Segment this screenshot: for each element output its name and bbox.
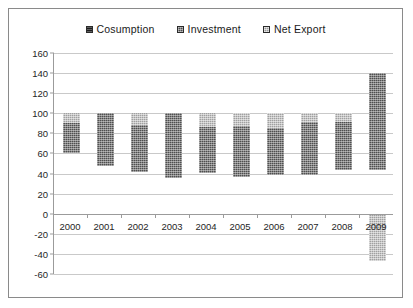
legend-item-label: Cosumption — [97, 23, 155, 35]
bar-segment-investment — [131, 125, 148, 171]
x-axis-tick — [257, 214, 258, 218]
square-dark-icon — [86, 26, 93, 33]
bar-segment-cosumption — [335, 170, 352, 214]
bar-segment-cosumption — [267, 175, 284, 214]
x-axis-label: 2008 — [331, 221, 352, 232]
bar-segment-net-export — [233, 113, 250, 126]
legend-item-cosumption[interactable]: Cosumption — [86, 23, 155, 35]
bar-group-2003[interactable] — [165, 53, 182, 274]
bar-group-2006[interactable] — [267, 53, 284, 274]
chart-legend: CosumptionInvestmentNet Export — [9, 23, 402, 35]
bar-group-2004[interactable] — [199, 53, 216, 274]
x-axis-label: 2000 — [59, 221, 80, 232]
bar-series-container — [54, 53, 393, 274]
y-axis-label: 60 — [14, 148, 48, 159]
legend-item-label: Investment — [188, 23, 241, 35]
y-axis-label: 20 — [14, 188, 48, 199]
x-axis-label: 2006 — [263, 221, 284, 232]
bar-segment-net-export — [301, 113, 318, 122]
bar-segment-investment — [301, 122, 318, 174]
bar-group-2002[interactable] — [131, 53, 148, 274]
x-axis-label: 2007 — [297, 221, 318, 232]
bar-segment-investment — [97, 113, 114, 165]
x-axis-label: 2001 — [93, 221, 114, 232]
bar-segment-cosumption — [97, 166, 114, 214]
gridline — [54, 274, 393, 275]
bar-segment-investment — [335, 122, 352, 169]
bar-group-2000[interactable] — [63, 53, 80, 274]
bar-group-2007[interactable] — [301, 53, 318, 274]
bar-group-2008[interactable] — [335, 53, 352, 274]
bar-segment-cosumption — [369, 170, 386, 214]
bar-segment-cosumption — [233, 177, 250, 214]
y-axis-label: 160 — [14, 48, 48, 59]
bar-segment-investment — [233, 126, 250, 176]
bar-segment-investment — [369, 73, 386, 169]
x-axis-label: 2004 — [195, 221, 216, 232]
y-axis-label: 100 — [14, 108, 48, 119]
x-axis-tick — [189, 214, 190, 218]
bar-segment-investment — [165, 113, 182, 177]
x-axis-tick — [121, 214, 122, 218]
plot-area: 160140120100806040200-20-40-60 — [53, 53, 393, 274]
x-axis-label: 2003 — [161, 221, 182, 232]
x-axis-tick — [223, 214, 224, 218]
x-axis — [53, 214, 393, 215]
x-axis-label: 2005 — [229, 221, 250, 232]
y-axis-label: 80 — [14, 128, 48, 139]
bar-group-2005[interactable] — [233, 53, 250, 274]
bar-group-2009[interactable] — [369, 53, 386, 274]
bar-group-2001[interactable] — [97, 53, 114, 274]
bar-segment-cosumption — [301, 175, 318, 214]
x-axis-tick — [155, 214, 156, 218]
y-axis-label: -20 — [14, 228, 48, 239]
x-axis-label: 2009 — [365, 221, 386, 232]
bar-segment-investment — [199, 127, 216, 172]
y-axis-label: -60 — [14, 269, 48, 280]
bar-segment-net-export — [335, 113, 352, 122]
y-axis-label: 0 — [14, 208, 48, 219]
bar-segment-investment — [63, 123, 80, 153]
x-axis-tick — [359, 214, 360, 218]
bar-segment-net-export — [199, 113, 216, 127]
bar-segment-net-export — [131, 113, 148, 125]
x-axis-tick — [325, 214, 326, 218]
bar-segment-net-export — [267, 113, 284, 128]
legend-item-net-export[interactable]: Net Export — [263, 23, 326, 35]
y-axis-label: 120 — [14, 88, 48, 99]
y-axis-label: 40 — [14, 168, 48, 179]
bar-segment-net-export — [63, 113, 80, 123]
x-axis-label: 2002 — [127, 221, 148, 232]
bar-segment-cosumption — [131, 172, 148, 214]
x-axis-tick — [87, 214, 88, 218]
bar-segment-cosumption — [199, 173, 216, 214]
x-axis-tick — [291, 214, 292, 218]
legend-item-investment[interactable]: Investment — [177, 23, 241, 35]
bar-segment-cosumption — [165, 178, 182, 214]
bar-segment-investment — [267, 128, 284, 174]
chart-frame: CosumptionInvestmentNet Export 160140120… — [8, 8, 403, 298]
y-axis-label: -40 — [14, 248, 48, 259]
legend-item-label: Net Export — [274, 23, 326, 35]
y-axis-label: 140 — [14, 68, 48, 79]
bar-segment-cosumption — [63, 153, 80, 213]
square-light-icon — [263, 26, 270, 33]
square-mid-icon — [177, 26, 184, 33]
